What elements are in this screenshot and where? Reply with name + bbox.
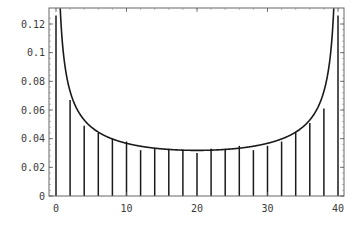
y-tick-label: 0.04 — [21, 133, 45, 144]
x-tick-label: 20 — [191, 203, 203, 214]
x-tick-label: 10 — [120, 203, 132, 214]
y-tick-label: 0 — [39, 191, 45, 202]
chart: 00.020.040.060.080.10.12 010203040 — [0, 0, 362, 227]
y-tick-label: 0.12 — [21, 19, 45, 30]
background — [0, 0, 362, 227]
x-tick-label: 0 — [53, 203, 59, 214]
x-tick-label: 30 — [261, 203, 273, 214]
x-tick-label: 40 — [332, 203, 344, 214]
y-tick-label: 0.1 — [27, 47, 45, 58]
y-tick-label: 0.02 — [21, 162, 45, 173]
y-tick-label: 0.06 — [21, 105, 45, 116]
y-tick-label: 0.08 — [21, 76, 45, 87]
